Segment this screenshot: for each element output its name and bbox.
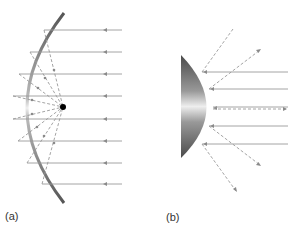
panel-a-label: (a) (5, 210, 18, 222)
reflected-arrowheads-b (233, 49, 261, 192)
focal-point (60, 104, 66, 110)
panel-a (13, 13, 122, 203)
mirror-reflection-diagram (0, 0, 292, 233)
panel-b (181, 29, 288, 192)
panel-b-label: (b) (166, 211, 179, 223)
axial-ray-b (213, 107, 288, 109)
incident-arrowheads-a (103, 28, 107, 186)
reflected-rays-b (202, 29, 260, 191)
axial-reflected-arrowhead (283, 107, 287, 111)
reflected-arrowheads-a (31, 69, 56, 145)
